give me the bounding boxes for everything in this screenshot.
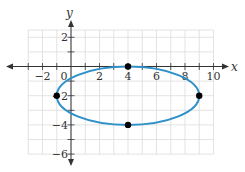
ellipse-graph: −202468102−2−4−6 x y	[0, 0, 245, 172]
data-point	[125, 63, 131, 69]
x-axis-label: x	[231, 60, 238, 74]
y-axis-up-arrow-icon	[68, 20, 74, 27]
y-axis-label: y	[65, 6, 73, 20]
x-axis-right-arrow-icon	[222, 64, 229, 70]
x-tick-label: 10	[207, 70, 221, 83]
data-point	[125, 122, 131, 128]
data-point	[196, 93, 202, 99]
x-tick-label: 4	[125, 70, 132, 83]
tick-labels: −202468102−2−4−6	[34, 31, 220, 161]
x-axis-left-arrow-icon	[6, 64, 13, 70]
x-tick-label: 2	[96, 70, 103, 83]
x-tick-label: −2	[34, 70, 50, 83]
y-tick-label: −4	[52, 119, 68, 132]
x-tick-label: 6	[153, 70, 160, 83]
data-point	[54, 93, 60, 99]
axes	[6, 20, 229, 166]
chart-canvas: −202468102−2−4−6 x y	[0, 0, 245, 172]
y-tick-label: −6	[52, 148, 68, 161]
y-axis-down-arrow-icon	[68, 159, 74, 166]
y-tick-label: 2	[61, 31, 68, 44]
